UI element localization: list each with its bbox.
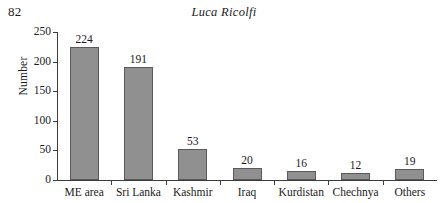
- bar-value-label: 19: [404, 155, 416, 168]
- bar-value-label: 191: [130, 53, 147, 66]
- y-axis-tick-label: 50: [40, 143, 52, 156]
- bar-value-label: 20: [241, 154, 253, 167]
- bar-value-label: 224: [76, 33, 93, 46]
- category-label: Chechnya: [333, 185, 379, 199]
- category-label: Others: [395, 185, 426, 199]
- bar: 20: [233, 168, 262, 180]
- category-label: Kurdistan: [279, 185, 324, 199]
- y-axis-title: Number: [17, 41, 29, 111]
- y-axis-tick-label: 100: [34, 114, 51, 127]
- bar: 53: [178, 149, 207, 180]
- x-axis-tick: [383, 181, 384, 185]
- bar-value-label: 53: [187, 135, 199, 148]
- bar-chart-figure: Number 050100150200250 2241915320161219 …: [0, 22, 448, 203]
- bar: 12: [341, 173, 370, 180]
- bar: 191: [124, 67, 153, 180]
- x-axis-tick: [328, 181, 329, 185]
- category-label: Sri Lanka: [116, 185, 161, 199]
- y-axis-tick: [53, 150, 57, 151]
- bar: 224: [70, 47, 99, 180]
- category-label: Iraq: [238, 185, 257, 199]
- x-axis-tick: [274, 181, 275, 185]
- x-axis-tick: [220, 181, 221, 185]
- y-axis-tick: [53, 121, 57, 122]
- plot-area: 050100150200250 2241915320161219 ME area…: [57, 32, 437, 180]
- bar-value-label: 16: [296, 157, 308, 170]
- y-axis-tick-label: 250: [34, 25, 51, 38]
- x-axis-tick: [111, 181, 112, 185]
- category-label: Kashmir: [173, 185, 213, 199]
- y-axis-tick-label: 150: [34, 84, 51, 97]
- y-axis-tick-label: 200: [34, 55, 51, 68]
- y-axis-tick: [53, 32, 57, 33]
- running-title: Luca Ricolfi: [0, 4, 448, 20]
- y-axis-line: [57, 32, 58, 181]
- bar: 16: [287, 171, 316, 180]
- bar-value-label: 12: [350, 159, 362, 172]
- y-axis-tick: [53, 91, 57, 92]
- y-axis-tick-label: 0: [45, 173, 51, 186]
- y-axis-tick: [53, 180, 57, 181]
- y-axis-tick: [53, 62, 57, 63]
- category-label: ME area: [65, 185, 104, 199]
- bar: 19: [395, 169, 424, 180]
- x-axis-line: [57, 180, 437, 181]
- x-axis-tick: [166, 181, 167, 185]
